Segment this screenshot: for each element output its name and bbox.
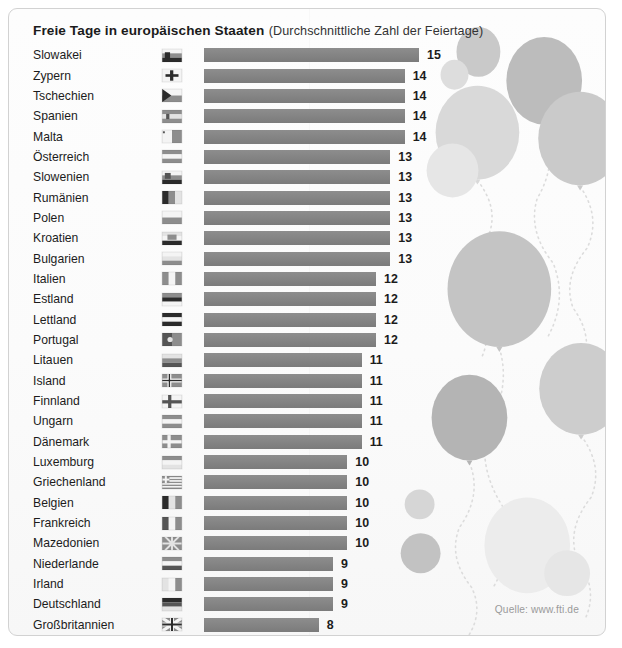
flag-irland (162, 578, 182, 591)
chart-row: Frankreich10 (9, 513, 605, 533)
country-label: Finnland (33, 394, 80, 408)
country-label: Frankreich (33, 516, 91, 530)
value-bar (204, 353, 362, 367)
country-flag (161, 455, 183, 469)
value-label: 12 (384, 333, 398, 347)
chart-row: Zypern14 (9, 65, 605, 85)
value-bar (204, 150, 390, 164)
value-bar (204, 272, 376, 286)
chart-row: Slowenien13 (9, 167, 605, 187)
chart-row: Italien12 (9, 269, 605, 289)
chart-row: Österreich13 (9, 147, 605, 167)
chart-row: Estland12 (9, 289, 605, 309)
value-label: 10 (355, 496, 369, 510)
country-label: Deutschland (33, 597, 101, 611)
flag-frankreich (162, 517, 182, 530)
country-flag (161, 516, 183, 530)
flag-niederlande (162, 557, 182, 570)
country-flag (161, 211, 183, 225)
flag-bulgarien (162, 252, 182, 265)
flag-zypern (162, 69, 182, 82)
value-label: 11 (370, 394, 383, 408)
country-flag (161, 150, 183, 164)
country-label: Belgien (33, 496, 74, 510)
flag-deutschland (162, 598, 182, 611)
country-label: Großbritannien (33, 618, 114, 632)
country-flag (161, 577, 183, 591)
country-label: Dänemark (33, 435, 89, 449)
flag-belgien (162, 496, 182, 509)
country-label: Slowenien (33, 170, 89, 184)
country-label: Österreich (33, 150, 89, 164)
value-label: 14 (413, 89, 427, 103)
chart-row: Malta14 (9, 126, 605, 146)
country-label: Zypern (33, 69, 71, 83)
chart-row: Großbritannien8 (9, 615, 605, 635)
value-bar (204, 89, 405, 103)
value-label: 8 (327, 618, 334, 632)
country-flag (161, 496, 183, 510)
flag-malta (162, 130, 182, 143)
value-label: 9 (341, 597, 348, 611)
chart-row: Polen13 (9, 208, 605, 228)
value-label: 11 (370, 435, 383, 449)
page-title: Freie Tage in europäischen Staaten (Durc… (33, 21, 483, 39)
chart-row: Ungarn11 (9, 411, 605, 431)
country-flag (161, 475, 183, 489)
country-label: Malta (33, 130, 63, 144)
flag-luxemburg (162, 456, 182, 469)
value-bar (204, 69, 405, 83)
value-bar (204, 496, 347, 510)
country-label: Rumänien (33, 191, 89, 205)
value-label: 14 (413, 109, 427, 123)
chart-row: Lettland12 (9, 309, 605, 329)
value-label: 10 (355, 455, 369, 469)
country-flag (161, 557, 183, 571)
flag-spanien (162, 110, 182, 123)
country-label: Lettland (33, 313, 76, 327)
value-bar (204, 435, 362, 449)
value-bar (204, 170, 390, 184)
value-label: 11 (370, 374, 383, 388)
flag-estland (162, 293, 182, 306)
flag-griechenland (162, 476, 182, 489)
value-label: 10 (355, 536, 369, 550)
country-label: Estland (33, 292, 74, 306)
value-label: 11 (370, 353, 383, 367)
value-bar (204, 48, 419, 62)
country-label: Luxemburg (33, 455, 94, 469)
value-label: 9 (341, 557, 348, 571)
chart-row: Bulgarien13 (9, 248, 605, 268)
chart-row: Schweiz4 (9, 635, 605, 636)
country-flag (161, 435, 183, 449)
country-flag (161, 130, 183, 144)
flag-litauen (162, 354, 182, 367)
value-label: 13 (398, 231, 412, 245)
country-label: Mazedonien (33, 536, 99, 550)
chart-row: Irland9 (9, 574, 605, 594)
value-bar (204, 231, 390, 245)
flag-kroatien (162, 232, 182, 245)
value-bar (204, 394, 362, 408)
country-label: Kroatien (33, 231, 78, 245)
chart-frame: Freie Tage in europäischen Staaten (Durc… (8, 8, 606, 636)
value-label: 14 (413, 69, 427, 83)
value-label: 12 (384, 292, 398, 306)
value-label: 12 (384, 272, 398, 286)
value-bar (204, 577, 333, 591)
chart-row: Belgien10 (9, 493, 605, 513)
flag-oesterreich (162, 150, 182, 163)
country-flag (161, 414, 183, 428)
value-bar (204, 516, 347, 530)
country-label: Polen (33, 211, 64, 225)
value-bar (204, 191, 390, 205)
value-bar (204, 557, 333, 571)
chart-row: Luxemburg10 (9, 452, 605, 472)
value-label: 11 (370, 414, 383, 428)
country-label: Bulgarien (33, 252, 85, 266)
chart-row: Finnland11 (9, 391, 605, 411)
title-subtitle: (Durchschnittliche Zahl der Feiertage) (269, 24, 483, 38)
value-label: 10 (355, 475, 369, 489)
flag-tschechien (162, 89, 182, 102)
value-bar (204, 292, 376, 306)
